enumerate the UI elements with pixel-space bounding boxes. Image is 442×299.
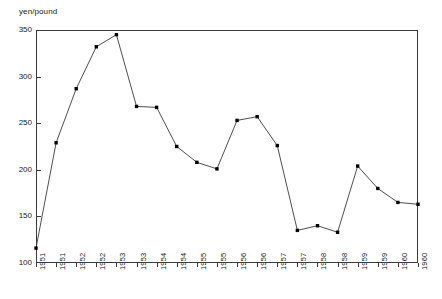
data-point-marker xyxy=(255,115,258,118)
data-point-marker xyxy=(175,145,178,148)
y-axis-tick-label: 350 xyxy=(6,26,32,34)
x-axis-tick-label: 1960 xyxy=(421,253,429,271)
x-axis-tick-mark xyxy=(378,263,379,267)
x-axis-tick-mark xyxy=(197,263,198,267)
series-line-yen-per-pound xyxy=(36,35,418,248)
data-point-marker xyxy=(135,105,138,108)
data-point-marker xyxy=(396,201,399,204)
chart-container: yen/pound 350300250200150100 19511951195… xyxy=(0,0,442,299)
x-axis-tick-mark xyxy=(237,263,238,267)
x-axis-tick-mark xyxy=(137,263,138,267)
y-axis-tick-label: 200 xyxy=(6,166,32,174)
data-point-marker xyxy=(316,224,319,227)
data-point-marker xyxy=(235,119,238,122)
y-axis-label: yen/pound xyxy=(19,7,57,17)
data-point-marker xyxy=(195,161,198,164)
line-series-plot xyxy=(36,30,418,263)
y-axis-tick-label: 300 xyxy=(6,73,32,81)
data-point-marker xyxy=(296,229,299,232)
data-point-marker xyxy=(276,144,279,147)
data-point-marker xyxy=(215,167,218,170)
x-axis-tick-mark xyxy=(217,263,218,267)
x-axis-tick-mark xyxy=(36,263,37,267)
x-axis-tick-mark xyxy=(177,263,178,267)
data-point-marker xyxy=(95,45,98,48)
data-point-marker xyxy=(356,164,359,167)
x-axis-tick-mark xyxy=(257,263,258,267)
data-point-marker xyxy=(115,33,118,36)
y-axis-tick-label: 250 xyxy=(6,119,32,127)
x-axis-tick-mark xyxy=(157,263,158,267)
data-point-marker xyxy=(376,187,379,190)
x-axis-tick-mark xyxy=(56,263,57,267)
x-axis-tick-mark xyxy=(418,263,419,267)
data-point-marker xyxy=(336,231,339,234)
x-axis-tick-mark xyxy=(338,263,339,267)
y-axis-tick-label: 100 xyxy=(6,259,32,267)
data-point-marker xyxy=(54,141,57,144)
data-point-marker xyxy=(34,246,37,249)
data-point-marker xyxy=(155,106,158,109)
x-axis-tick-mark xyxy=(358,263,359,267)
x-axis-tick-mark xyxy=(398,263,399,267)
data-point-marker xyxy=(416,203,419,206)
series-marker-group xyxy=(34,33,419,250)
data-point-marker xyxy=(75,87,78,90)
y-axis-tick-label: 150 xyxy=(6,212,32,220)
